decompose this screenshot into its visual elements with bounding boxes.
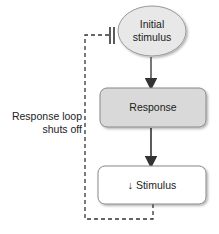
down-arrow-icon: ↓ — [128, 179, 133, 191]
stimulus-label: ↓ Stimulus — [98, 179, 206, 192]
response-label: Response — [100, 101, 206, 114]
initial-stimulus-label: Initial stimulus — [131, 18, 173, 44]
feedback-label: Response loop shuts off — [2, 110, 82, 136]
